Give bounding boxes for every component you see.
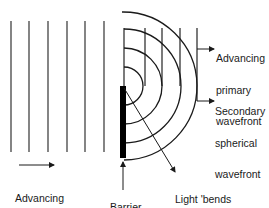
barrier (120, 86, 126, 158)
incident-plane-wavefronts (11, 21, 104, 152)
secondary-spherical-wavefronts (122, 12, 197, 160)
label-light-bends: Light 'bends around the corner' (175, 173, 231, 208)
label-advancing-wavefront: Advancing wavefront (15, 172, 64, 208)
label-barrier: Barrier (110, 181, 142, 208)
primary-wavefronts (124, 28, 197, 101)
